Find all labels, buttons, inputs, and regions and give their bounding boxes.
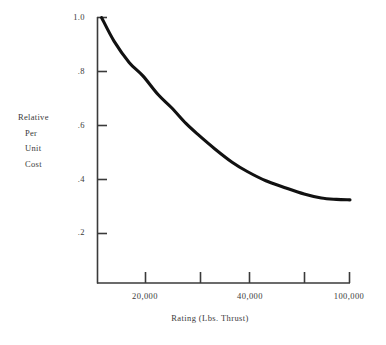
y-axis-ticks: [97, 18, 107, 234]
plot-area: [0, 0, 386, 345]
x-axis-ticks: [146, 272, 350, 283]
chart-figure: Relative Per Unit Cost 1.0 .8 .6 .4 .2 2…: [0, 0, 386, 345]
cost-curve: [102, 18, 350, 200]
